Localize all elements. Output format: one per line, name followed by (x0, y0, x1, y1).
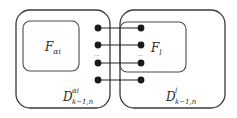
diagram-canvas: ... ... Fαi Fl D αi k−1,n D l k−1,n (0, 0, 237, 118)
right-outer-sup: l (175, 87, 177, 95)
left-dot-2 (95, 42, 102, 49)
right-outer-sub: k−1,n (175, 98, 197, 106)
left-dot-1 (95, 25, 102, 32)
right-dot-1 (138, 25, 145, 32)
left-outer-sub: k−1,n (72, 98, 94, 106)
left-inner-label: Fαi (44, 40, 61, 56)
right-ellipsis: ... (137, 50, 143, 57)
right-dot-2 (138, 42, 145, 49)
left-ellipsis: ... (94, 50, 100, 57)
left-dot-3 (95, 60, 102, 67)
right-dot-3 (138, 60, 145, 67)
right-inner-label: Fl (150, 41, 162, 57)
left-dot-4 (95, 77, 102, 84)
left-outer-sup: αi (72, 87, 79, 95)
right-dot-4 (138, 77, 145, 84)
